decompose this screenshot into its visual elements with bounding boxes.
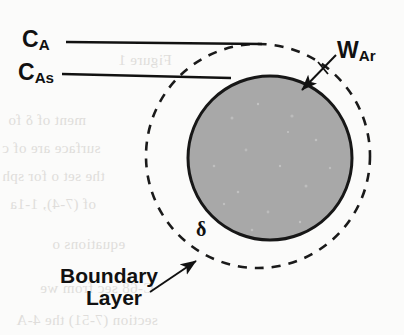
bulk-concentration-line — [66, 42, 262, 44]
film-thickness-label: δ — [196, 219, 206, 240]
surface-concentration-subscript: As — [35, 69, 54, 86]
boundary-layer-label-line1: Boundary — [60, 264, 158, 287]
bulk-concentration-label: CA — [22, 27, 50, 51]
mass-flux-subscript: Ar — [359, 47, 376, 64]
figure-container: Figure 1 ment of δ fo surface are of c t… — [0, 0, 404, 335]
mass-flux-label: WAr — [337, 38, 376, 62]
mass-flux-arrow — [302, 55, 336, 90]
sphere-particle — [188, 76, 352, 240]
boundary-layer-label-line2: Layer — [60, 287, 158, 309]
bulk-concentration-subscript: A — [39, 36, 50, 53]
surface-concentration-line — [62, 74, 231, 78]
boundary-layer-label: Boundary Layer — [60, 265, 158, 309]
surface-concentration-label: CAs — [18, 60, 54, 84]
